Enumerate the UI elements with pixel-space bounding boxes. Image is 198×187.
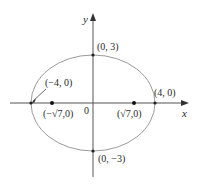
covertex-bottom-point [91, 149, 94, 152]
x-axis-arrow-icon [181, 100, 189, 106]
covertex-bottom-label: (0, −3) [98, 154, 125, 164]
vertex-left-label: (−4, 0) [45, 78, 72, 88]
x-axis-label: x [182, 108, 187, 119]
covertex-top-label: (0, 3) [97, 42, 119, 52]
y-axis-label: y [83, 14, 88, 25]
ellipse-figure: y x 0 (0, 3) (0, −3) (−4, 0) (4, 0) (−√7… [0, 0, 198, 187]
covertex-top-point [91, 53, 94, 56]
focus-right-point [132, 101, 136, 105]
focus-left-point [50, 101, 54, 105]
focus-right-label: (√7,0) [117, 109, 142, 119]
focus-left-label: (−√7,0) [43, 109, 73, 119]
vertex-right-point [153, 101, 156, 104]
leader-line [33, 89, 46, 101]
vertex-right-label: (4, 0) [154, 88, 176, 98]
origin-label: 0 [84, 106, 89, 116]
y-axis-arrow-icon [90, 13, 96, 21]
